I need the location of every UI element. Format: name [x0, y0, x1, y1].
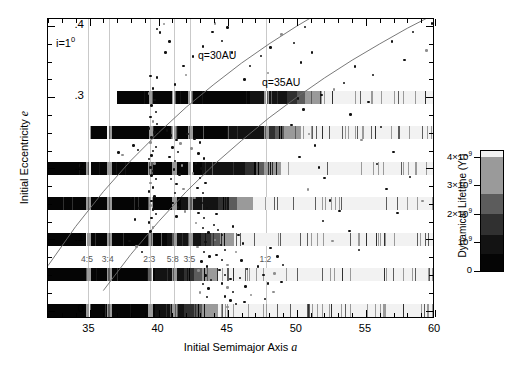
x-tick-minor [242, 313, 243, 317]
y-tick-minor [48, 293, 52, 294]
observed-object-dot [150, 154, 153, 157]
y-tick-label: .1 [44, 231, 84, 243]
observed-object-dot [197, 152, 200, 155]
x-tick-minor [131, 313, 132, 317]
x-tick-label: 60 [414, 322, 454, 334]
y-tick-minor [48, 222, 52, 223]
x-tick-top-minor [186, 19, 187, 23]
colorbar-exponent: 9 [468, 150, 472, 157]
observed-object-dot [197, 269, 200, 272]
x-tick-minor [407, 313, 408, 317]
observed-object-dot [242, 242, 245, 245]
observed-object-dot [135, 245, 138, 248]
degree-symbol: 0 [71, 35, 75, 44]
colorbar-tick [474, 214, 480, 215]
y-tick-label: .3 [44, 89, 84, 101]
y-tick-right-major [426, 26, 433, 27]
resonance-label-2-3: 2:3 [143, 254, 155, 264]
observed-object-dot [300, 61, 303, 64]
colorbar-tick-label: 109 [418, 235, 472, 247]
observed-object-dot [385, 188, 388, 191]
x-tick-label: 50 [276, 322, 316, 334]
observed-object-dot [314, 144, 317, 147]
observed-object-dot [202, 45, 205, 48]
colorbar-band-4 [481, 156, 503, 194]
x-tick-label: 55 [345, 322, 385, 334]
colorbar-band-0 [481, 253, 503, 271]
observed-object-dot [149, 141, 152, 144]
x-tick-minor [421, 313, 422, 317]
observed-object-dot [149, 166, 152, 169]
observed-object-dot [262, 274, 265, 277]
colorbar-tick-label: 4×109 [418, 150, 472, 162]
observed-object-dot [164, 51, 167, 54]
x-tick-minor [394, 313, 395, 317]
observed-object-dot [240, 259, 243, 262]
x-tick-top-minor [242, 19, 243, 23]
y-tick-right-minor [429, 222, 433, 223]
observed-object-dot [178, 173, 181, 176]
inclination-text: i=1 [56, 37, 71, 49]
observed-object-dot [298, 156, 301, 159]
observed-object-dot [175, 139, 178, 142]
y-tick-right-minor [429, 133, 433, 134]
observed-object-dot [153, 195, 156, 198]
x-tick-minor [311, 313, 312, 317]
y-tick-right-minor [429, 62, 433, 63]
observed-object-dot [166, 129, 169, 132]
colorbar [480, 150, 504, 272]
x-tick-minor [269, 313, 270, 317]
observed-object-dot [224, 295, 227, 298]
y-tick-right-minor [429, 204, 433, 205]
colorbar-tick [474, 242, 480, 243]
observed-object-dot [226, 26, 229, 29]
observed-object-dot [211, 31, 214, 34]
x-tick-minor [283, 313, 284, 317]
observed-object-dot [243, 301, 246, 304]
x-tick-minor [214, 313, 215, 317]
x-tick-top-minor [145, 19, 146, 23]
x-tick-top-minor [394, 19, 395, 23]
colorbar-title: Dynamical Lifetime (Yr) [457, 144, 468, 268]
y-tick-right-major [426, 97, 433, 98]
observed-object-dot [121, 154, 124, 157]
observed-object-dot [392, 151, 395, 154]
y-tick-minor [48, 204, 52, 205]
colorbar-band-5 [481, 151, 503, 157]
observed-object-dot [148, 221, 151, 224]
x-tick-top-minor [352, 19, 353, 23]
colorbar-tick [474, 157, 480, 158]
observed-object-dot [182, 65, 185, 68]
x-tick-minor [172, 313, 173, 317]
observed-object-dot [149, 204, 152, 207]
observed-object-dot [331, 240, 334, 243]
observed-object-dot [184, 210, 187, 213]
x-tick-top-minor [214, 19, 215, 23]
observed-object-dot [182, 188, 185, 191]
observed-object-dot [276, 255, 279, 258]
observed-object-dot [150, 104, 153, 107]
observed-object-dot [168, 156, 171, 159]
observed-object-dot [132, 144, 135, 147]
colorbar-exponent: 9 [468, 207, 472, 214]
colorbar-band-2 [481, 213, 503, 235]
observed-object-dot [137, 149, 140, 152]
x-tick-label: 40 [138, 322, 178, 334]
x-tick-major [297, 310, 298, 317]
x-tick-top-minor [338, 19, 339, 23]
observed-object-dot [338, 210, 341, 213]
y-tick-right-major [426, 311, 433, 312]
observed-object-dot [302, 108, 305, 111]
observed-object-dot [149, 230, 152, 233]
observed-object-dot [272, 291, 275, 294]
observed-object-dot [153, 162, 156, 165]
q35-curve-label: q=35AU [262, 76, 300, 88]
observed-object-dot [318, 166, 321, 169]
observed-object-dot [218, 269, 221, 272]
x-tick-major [90, 310, 91, 317]
observed-object-dot [269, 247, 272, 250]
observed-object-dot [150, 174, 153, 177]
observed-object-dot [244, 285, 247, 288]
y-tick-label: .4 [44, 18, 84, 30]
observed-object-dot [177, 206, 180, 209]
